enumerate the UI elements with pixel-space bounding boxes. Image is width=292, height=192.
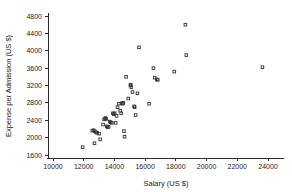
data-point xyxy=(261,66,264,69)
data-point xyxy=(102,123,105,126)
y-tick-label: 1600 xyxy=(26,152,42,159)
data-point xyxy=(152,67,155,70)
x-tick-label: 22000 xyxy=(228,163,248,170)
data-point xyxy=(148,102,151,105)
data-point xyxy=(81,146,84,149)
data-point xyxy=(117,102,120,105)
data-points-layer xyxy=(81,23,263,148)
data-point xyxy=(99,138,102,141)
x-tick-label: 12000 xyxy=(74,163,94,170)
data-point xyxy=(93,142,96,145)
y-axis-ticks: 160020002400280032003600400044004800 xyxy=(26,13,48,159)
data-point xyxy=(123,130,126,133)
y-tick-label: 4400 xyxy=(26,30,42,37)
scatter-plot-canvas: 160020002400280032003600400044004800 100… xyxy=(0,0,292,192)
y-axis-title: Expense per Admission (US $) xyxy=(4,34,13,137)
data-point xyxy=(134,114,137,117)
data-point xyxy=(127,97,130,100)
x-tick-label: 20000 xyxy=(197,163,217,170)
data-point xyxy=(138,46,141,49)
y-tick-label: 4800 xyxy=(26,13,42,20)
x-axis-ticks: 1000012000140001600018000200002200024000 xyxy=(43,158,278,170)
data-point xyxy=(116,106,119,109)
data-point xyxy=(184,23,187,26)
x-tick-label: 18000 xyxy=(166,163,186,170)
y-tick-label: 2000 xyxy=(26,134,42,141)
x-tick-label: 10000 xyxy=(43,163,63,170)
y-tick-label: 4000 xyxy=(26,47,42,54)
x-axis-title: Salary (US $) xyxy=(143,179,189,188)
x-tick-label: 16000 xyxy=(135,163,155,170)
data-point xyxy=(115,115,118,118)
axis-lines xyxy=(47,13,284,158)
x-tick-label: 24000 xyxy=(258,163,278,170)
y-tick-label: 3600 xyxy=(26,65,42,72)
data-point xyxy=(123,135,126,138)
data-point xyxy=(173,70,176,73)
data-point xyxy=(131,91,134,94)
scatter-plot-figure: 160020002400280032003600400044004800 100… xyxy=(0,0,292,192)
data-point xyxy=(114,122,117,125)
data-point xyxy=(98,132,101,135)
data-point xyxy=(120,112,123,115)
data-point xyxy=(136,92,139,95)
data-point xyxy=(125,76,128,79)
data-point xyxy=(185,54,188,57)
x-tick-label: 14000 xyxy=(105,163,125,170)
y-tick-label: 3200 xyxy=(26,82,42,89)
y-tick-label: 2400 xyxy=(26,117,42,124)
y-tick-label: 2800 xyxy=(26,99,42,106)
